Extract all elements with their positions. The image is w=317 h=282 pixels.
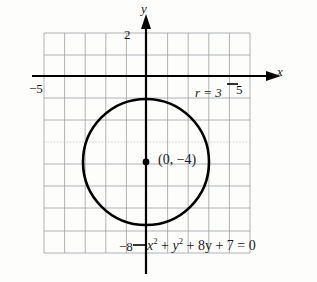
tick-label-y-negative-8: −8 — [119, 240, 133, 253]
y-axis-label: y — [141, 2, 147, 15]
x-axis — [32, 71, 281, 81]
circle-equation-label: x2 + y2 + 8y + 7 = 0 — [147, 239, 256, 253]
tick-label-x-negative-5: −5 — [29, 82, 43, 95]
center-point-label: (0, −4) — [158, 153, 196, 167]
equation-plus: + — [158, 238, 173, 253]
tick-label-y-2: 2 — [124, 28, 131, 41]
radius-label: r = 3 — [195, 86, 222, 99]
y-axis — [141, 14, 151, 274]
equation-tail: + 8y + 7 = 0 — [183, 238, 256, 253]
center-point-marker — [143, 159, 150, 166]
x-axis-label: x — [277, 65, 283, 78]
tick-label-x-5: 5 — [236, 83, 243, 96]
circle-graph-figure: y x 2 −5 5 −8 (0, −4) r = 3 x2 + y2 + 8y… — [0, 0, 317, 282]
